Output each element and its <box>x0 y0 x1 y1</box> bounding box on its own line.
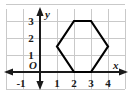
y-tick-label-3: 3 <box>28 15 34 27</box>
y-axis-arrow-up <box>36 7 43 16</box>
x-axis-arrow-left <box>4 68 13 75</box>
y-axis-label: y <box>43 8 50 20</box>
x-axis-label: x <box>112 59 119 71</box>
x-tick-label-2: 2 <box>71 77 77 89</box>
x-tick-label-1: 1 <box>54 77 60 89</box>
y-tick-label-2: 2 <box>28 32 34 44</box>
y-tick-label-1: 1 <box>28 49 34 61</box>
y-axis <box>36 7 43 90</box>
x-tick-label-3: 3 <box>88 77 94 89</box>
x-tick-label-4: 4 <box>105 77 111 89</box>
hexagon-shape <box>57 21 108 72</box>
coordinate-grid-figure: y x O 1 2 3 -1 1 2 3 4 <box>0 0 131 92</box>
graph-canvas: y x O 1 2 3 -1 1 2 3 4 <box>0 0 131 92</box>
x-axis-arrow-right <box>119 68 128 75</box>
x-tick-label-neg1: -1 <box>16 77 25 89</box>
